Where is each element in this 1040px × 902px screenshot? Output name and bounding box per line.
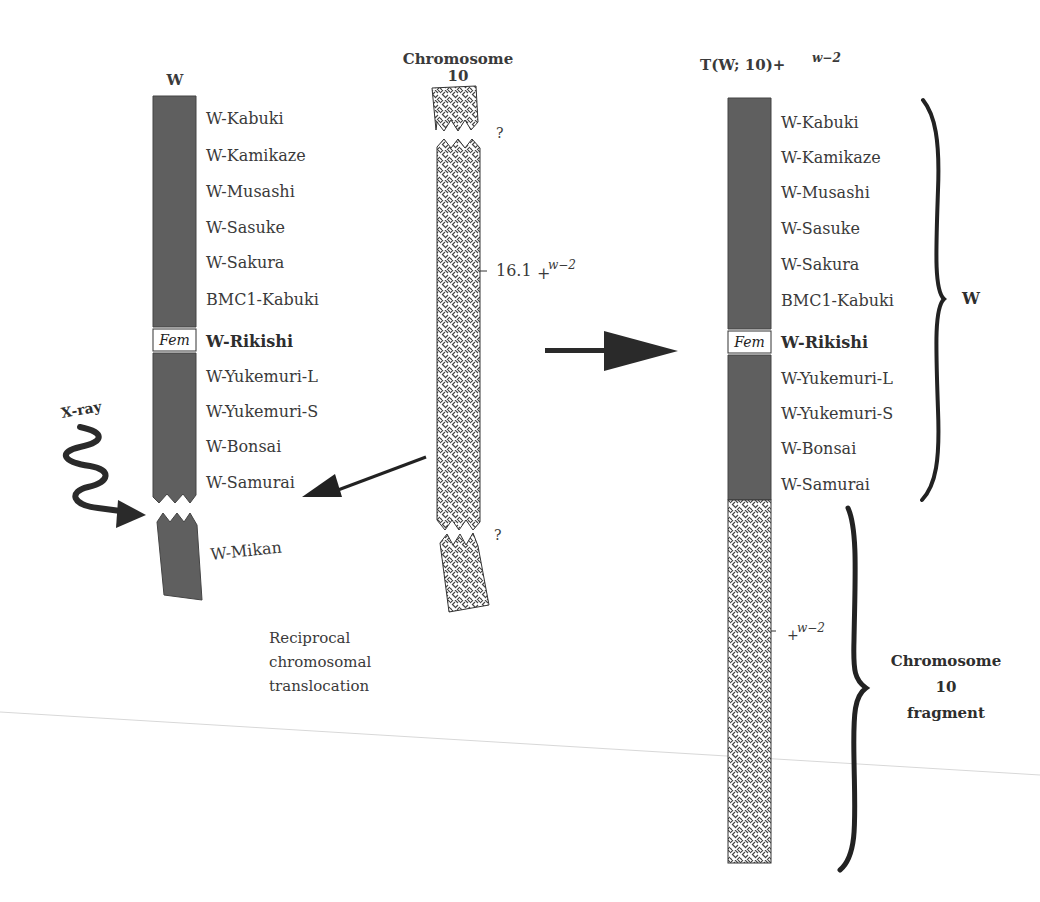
result-arrowhead-icon: [604, 331, 678, 371]
right-locus-2: W-Musashi: [781, 183, 870, 202]
right-locus-3: W-Sasuke: [781, 219, 860, 238]
translocation-arrowhead-icon: [302, 474, 342, 497]
middle-chromosome-10: Chromosome 10 ? 16.1 + w−2 ?: [302, 50, 576, 612]
left-locus-1: W-Kamikaze: [206, 146, 306, 165]
left-locus-7: W-Yukemuri-L: [206, 367, 318, 386]
right-locus-10: W-Samurai: [781, 475, 870, 494]
right-fem-label: Fem: [733, 334, 765, 350]
result-arrow: [545, 331, 678, 371]
fragment-label-line3: fragment: [907, 704, 985, 722]
fem-label: Fem: [158, 332, 190, 348]
marker-sup: w−2: [548, 258, 576, 272]
left-locus-10: W-Samurai: [206, 473, 295, 492]
left-fragment-locus: W-Mikan: [209, 538, 282, 564]
middle-title-line1: Chromosome: [403, 50, 514, 68]
caption: Reciprocal chromosomal translocation: [269, 629, 371, 695]
fragment-label-line2: 10: [936, 678, 957, 696]
left-locus-0: W-Kabuki: [206, 109, 284, 128]
question-bottom: ?: [494, 527, 502, 543]
right-w-lower-segment: [728, 355, 771, 500]
question-top: ?: [496, 125, 504, 141]
xray-label: X-ray: [60, 398, 104, 421]
right-locus-9: W-Bonsai: [781, 439, 856, 458]
right-locus-8: W-Yukemuri-S: [781, 404, 893, 423]
left-chromosome-title: W: [166, 71, 185, 89]
left-w-chromosome: W Fem W-Kabuki W-Kamikaze W-Musashi W-Sa…: [60, 71, 319, 600]
w-broken-fragment: [157, 513, 202, 600]
translocation-diagram: W Fem W-Kabuki W-Kamikaze W-Musashi W-Sa…: [0, 0, 1040, 902]
xray-wave-icon: [66, 427, 128, 512]
marker-value: 16.1: [496, 261, 532, 280]
result-arrow-shaft: [545, 348, 607, 353]
chr10-main-body: [437, 139, 480, 530]
left-locus-5: BMC1-Kabuki: [206, 290, 319, 309]
chr10-top-piece: [432, 86, 478, 131]
fragment-marker-sup: w−2: [797, 621, 825, 635]
w-upper-segment: [153, 96, 196, 327]
fragment-brace-icon: [840, 508, 866, 870]
right-locus-1: W-Kamikaze: [781, 148, 881, 167]
caption-line1: Reciprocal: [269, 629, 351, 647]
right-locus-4: W-Sakura: [781, 255, 860, 274]
right-w-upper-segment: [728, 98, 771, 329]
left-locus-3: W-Sasuke: [206, 218, 285, 237]
left-locus-9: W-Bonsai: [206, 437, 281, 456]
middle-title-line2: 10: [448, 67, 469, 85]
left-locus-2: W-Musashi: [206, 182, 295, 201]
chr10-bottom-piece: [440, 533, 489, 612]
caption-line2: chromosomal: [269, 653, 371, 671]
left-locus-4: W-Sakura: [206, 253, 285, 272]
caption-line3: translocation: [269, 677, 370, 695]
scan-artifact-line: [0, 712, 1040, 775]
right-locus-5: BMC1-Kabuki: [781, 291, 894, 310]
right-chr10-fragment: [728, 500, 771, 863]
translocation-arrow-line: [330, 457, 426, 493]
left-locus-6: W-Rikishi: [205, 332, 293, 351]
right-title-sup: w−2: [812, 51, 841, 65]
xray-arrowhead-icon: [116, 500, 146, 528]
w-brace-icon: [922, 100, 944, 500]
right-title-main: T(W; 10)+: [700, 56, 785, 74]
right-translocated-chromosome: T(W; 10)+ w−2 Fem W-Kabuki W-Kamikaze W-…: [700, 51, 1001, 870]
fragment-label-line1: Chromosome: [891, 652, 1002, 670]
w-brace-label: W: [961, 289, 981, 308]
right-locus-0: W-Kabuki: [781, 113, 859, 132]
left-locus-8: W-Yukemuri-S: [206, 402, 318, 421]
right-locus-7: W-Yukemuri-L: [781, 369, 893, 388]
right-locus-6: W-Rikishi: [780, 333, 868, 352]
w-lower-segment: [153, 353, 196, 503]
